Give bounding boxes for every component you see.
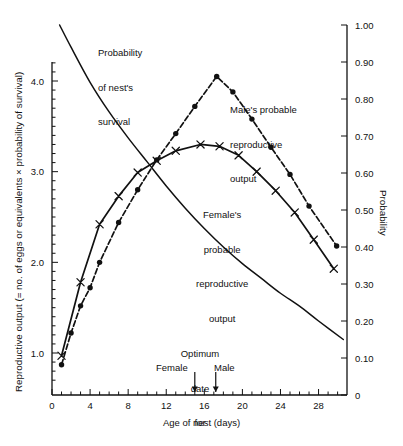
- y-axis-label: Reproductive output (= no. of eggs or eq…: [13, 72, 24, 392]
- data-point-marker: [306, 203, 311, 208]
- data-point-marker: [192, 104, 197, 109]
- data-point-marker: [291, 209, 298, 216]
- data-point-marker: [334, 243, 339, 248]
- annotation-optimum-line1: Optimum: [168, 348, 232, 360]
- y2-tick-label: 0.40: [355, 242, 374, 253]
- y2-axis-label: Probability: [378, 190, 389, 236]
- annotation-female-line2: probable: [196, 244, 248, 256]
- y2-tick-label: 0.80: [355, 94, 374, 105]
- y-tick-label: 3.0: [31, 166, 44, 177]
- data-point-marker: [59, 362, 64, 367]
- data-point-marker: [97, 260, 102, 265]
- x-tick-label: 24: [275, 400, 286, 411]
- y2-tick-label: 0.30: [355, 279, 374, 290]
- y2-tick-label: 1.00: [355, 20, 374, 31]
- annotation-female-line1: Female's: [196, 209, 248, 221]
- annotation-male-line3: output: [230, 173, 297, 185]
- y-tick-label: 1.0: [31, 348, 44, 359]
- annotation-optimum-date: Optimum date for: [168, 325, 232, 446]
- data-point-marker: [214, 74, 219, 79]
- y2-tick-label: 0.20: [355, 316, 374, 327]
- x-tick-label: 8: [126, 400, 131, 411]
- annotation-survival-line3: survival: [98, 116, 142, 128]
- x-tick-label: 4: [87, 400, 92, 411]
- annotation-optimum-line3: for: [168, 417, 232, 429]
- annotation-optimum-line2: date: [168, 383, 232, 395]
- data-point-marker: [68, 330, 73, 335]
- data-point-marker: [78, 303, 83, 308]
- data-point-marker: [330, 265, 337, 272]
- y2-tick-label: 0.90: [355, 57, 374, 68]
- data-point-marker: [87, 285, 92, 290]
- y2-tick-label: 0.50: [355, 205, 374, 216]
- y2-tick-label: 0.10: [355, 353, 374, 364]
- annotation-survival-line2: of nest's: [98, 82, 142, 94]
- annotation-optimum-male: Male: [214, 362, 235, 374]
- y2-tick-label: 0.70: [355, 131, 374, 142]
- annotation-female-output: Female's probable reproductive output: [196, 186, 248, 347]
- annotation-survival: Probability of nest's survival: [98, 24, 142, 151]
- annotation-male-line1: Male's probable: [230, 104, 297, 116]
- annotation-optimum-female: Female: [156, 362, 188, 374]
- y-tick-label: 4.0: [31, 76, 44, 87]
- annotation-female-line4: output: [196, 313, 248, 325]
- annotation-male-line2: reproductive: [230, 139, 297, 151]
- data-point-marker: [134, 169, 141, 176]
- y2-tick-label: 0: [355, 390, 360, 401]
- y2-tick-label: 0.60: [355, 168, 374, 179]
- annotation-survival-line1: Probability: [98, 47, 142, 59]
- x-tick-label: 28: [313, 400, 324, 411]
- y-tick-label: 2.0: [31, 257, 44, 268]
- data-point-marker: [173, 131, 178, 136]
- data-point-marker: [310, 236, 317, 243]
- x-tick-label: 20: [237, 400, 248, 411]
- figure-nest-reproductive-output: 04812162024281.02.03.04.000.100.200.300.…: [0, 0, 403, 446]
- data-point-marker: [115, 193, 122, 200]
- data-point-marker: [116, 220, 121, 225]
- x-tick-label: 0: [49, 400, 54, 411]
- data-point-marker: [135, 187, 140, 192]
- annotation-female-line3: reproductive: [196, 278, 248, 290]
